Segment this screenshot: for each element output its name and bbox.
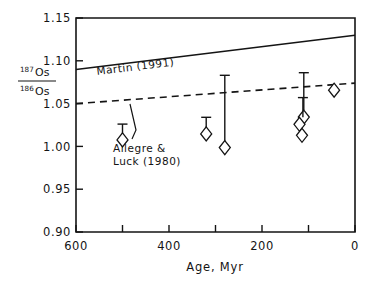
y-tick-label: 1.05 bbox=[43, 97, 71, 111]
y-axis-numerator-superscript: 187 bbox=[20, 65, 34, 74]
x-axis-ticks bbox=[76, 225, 355, 232]
x-tick-label: 600 bbox=[64, 239, 88, 253]
y-axis-tick-labels: 1.15 1.10 1.05 1.00 0.95 0.90 bbox=[43, 11, 71, 239]
allegre-luck-1980-line bbox=[76, 83, 355, 104]
y-axis-title: 187 Os 186 Os bbox=[18, 65, 56, 98]
data-point bbox=[201, 117, 212, 141]
data-point bbox=[219, 75, 230, 154]
allegre-luck-leader-line bbox=[130, 104, 136, 139]
y-tick-label: 1.15 bbox=[43, 11, 71, 25]
y-tick-label: 1.00 bbox=[43, 140, 71, 154]
x-tick-label: 400 bbox=[157, 239, 181, 253]
y-axis-denominator-base: Os bbox=[35, 85, 50, 98]
x-axis-title: Age, Myr bbox=[186, 260, 243, 274]
x-tick-label: 200 bbox=[250, 239, 274, 253]
data-point bbox=[298, 73, 309, 124]
y-axis-ticks bbox=[76, 18, 83, 232]
x-axis-tick-labels: 600 400 200 0 bbox=[64, 239, 359, 253]
x-tick-label: 0 bbox=[351, 239, 359, 253]
os-isotope-age-chart: 1.15 1.10 1.05 1.00 0.95 0.90 600 400 20… bbox=[0, 0, 367, 285]
y-axis-denominator-superscript: 186 bbox=[20, 84, 34, 93]
y-tick-label: 0.90 bbox=[43, 225, 71, 239]
plot-frame bbox=[76, 18, 355, 232]
allegre-luck-annotation-line2: Luck (1980) bbox=[113, 155, 181, 167]
y-tick-label: 0.95 bbox=[43, 182, 71, 196]
martin-1991-annotation: Martin (1991) bbox=[96, 56, 175, 77]
y-axis-numerator-base: Os bbox=[35, 66, 50, 79]
